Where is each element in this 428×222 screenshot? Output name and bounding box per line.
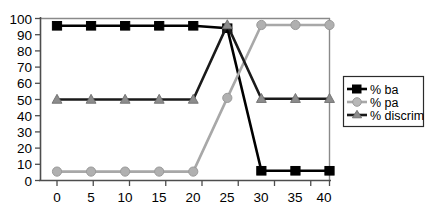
chart-legend: % ba % pa % discrim bbox=[344, 77, 425, 127]
square-marker bbox=[325, 166, 334, 175]
circle-marker bbox=[86, 167, 95, 176]
line-chart: 100 90 80 70 60 50 40 30 20 10 0 0 bbox=[0, 0, 428, 222]
legend-label-ba: % ba bbox=[370, 83, 399, 97]
square-marker bbox=[86, 21, 95, 30]
legend-label-pa: % pa bbox=[370, 96, 399, 110]
x-axis-ticks bbox=[57, 181, 330, 187]
square-marker bbox=[52, 21, 61, 30]
x-tick-label: 15 bbox=[151, 190, 166, 205]
y-tick-label: 80 bbox=[17, 44, 32, 59]
y-tick-label: 60 bbox=[17, 76, 32, 91]
y-tick-label: 90 bbox=[17, 28, 32, 43]
y-tick-label: 10 bbox=[17, 157, 32, 172]
square-marker bbox=[155, 21, 164, 30]
y-axis-tick-labels: 100 90 80 70 60 50 40 30 20 10 0 bbox=[9, 12, 32, 189]
square-marker bbox=[257, 166, 266, 175]
circle-marker bbox=[257, 20, 266, 29]
x-axis-tick-labels: 0 5 10 15 20 25 30 35 40 bbox=[53, 190, 331, 205]
circle-marker bbox=[52, 167, 61, 176]
circle-marker bbox=[189, 167, 198, 176]
y-tick-label: 70 bbox=[17, 60, 32, 75]
x-tick-label: 5 bbox=[87, 190, 95, 205]
circle-marker bbox=[121, 167, 130, 176]
y-tick-label: 100 bbox=[9, 12, 32, 27]
circle-marker bbox=[291, 20, 300, 29]
x-tick-label: 20 bbox=[185, 190, 200, 205]
circle-marker bbox=[155, 167, 164, 176]
x-tick-label: 25 bbox=[219, 190, 234, 205]
x-tick-label: 35 bbox=[287, 190, 302, 205]
x-tick-label: 10 bbox=[117, 190, 132, 205]
y-tick-label: 30 bbox=[17, 125, 32, 140]
square-marker bbox=[121, 21, 130, 30]
x-tick-label: 40 bbox=[316, 190, 331, 205]
chart-figure: 100 90 80 70 60 50 40 30 20 10 0 0 bbox=[0, 0, 428, 222]
legend-label-discrim: % discrim bbox=[370, 109, 424, 123]
square-marker-icon bbox=[353, 85, 362, 93]
y-tick-label: 0 bbox=[24, 174, 32, 189]
x-tick-label: 0 bbox=[53, 190, 61, 205]
circle-marker bbox=[223, 93, 232, 102]
y-tick-label: 20 bbox=[17, 141, 32, 156]
circle-marker bbox=[325, 20, 334, 29]
circle-marker-icon bbox=[353, 98, 362, 107]
y-tick-label: 40 bbox=[17, 109, 32, 124]
x-tick-label: 30 bbox=[253, 190, 268, 205]
y-tick-label: 50 bbox=[17, 93, 32, 108]
square-marker bbox=[291, 166, 300, 175]
y-axis-ticks bbox=[35, 19, 40, 181]
square-marker bbox=[189, 21, 198, 30]
